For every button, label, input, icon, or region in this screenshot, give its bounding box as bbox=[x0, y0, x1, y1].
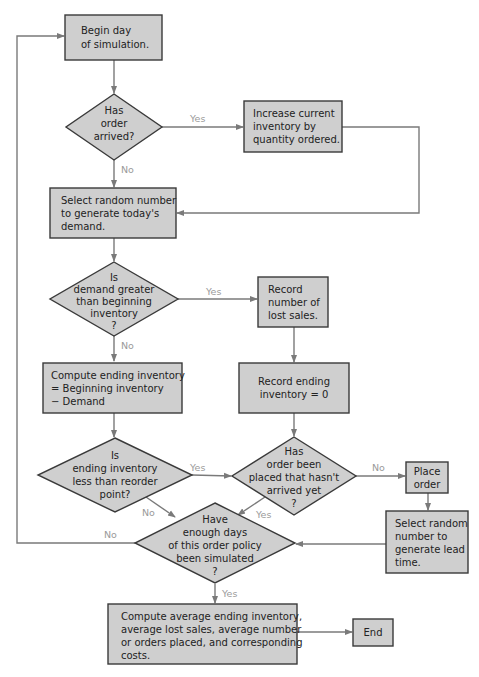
svg-text:quantity ordered.: quantity ordered. bbox=[253, 134, 340, 145]
svg-text:point?: point? bbox=[100, 489, 131, 500]
node-select-lead: Select random number to generate lead ti… bbox=[386, 511, 468, 573]
svg-text:Record ending: Record ending bbox=[258, 376, 330, 387]
svg-text:number to: number to bbox=[395, 531, 447, 542]
svg-text:costs.: costs. bbox=[121, 650, 150, 661]
node-compute-average: Compute average ending inventory, averag… bbox=[108, 604, 302, 664]
svg-text:End: End bbox=[363, 627, 382, 638]
svg-text:less than reorder: less than reorder bbox=[72, 476, 158, 487]
svg-text:inventory = 0: inventory = 0 bbox=[260, 389, 329, 400]
flowchart: Yes No Yes No Yes No No Yes No Yes Begin… bbox=[0, 0, 479, 677]
svg-text:arrived?: arrived? bbox=[94, 131, 135, 142]
edge-ending-less-yes bbox=[192, 475, 231, 476]
label-ending-less-yes: Yes bbox=[189, 462, 205, 473]
node-increase-inventory: Increase current inventory by quantity o… bbox=[244, 101, 342, 152]
label-order-placed-yes: Yes bbox=[255, 509, 271, 520]
svg-text:?: ? bbox=[212, 566, 217, 577]
svg-text:Compute average ending invento: Compute average ending inventory, bbox=[121, 611, 302, 622]
node-select-demand: Select random number to generate today's… bbox=[50, 188, 177, 238]
svg-text:inventory by: inventory by bbox=[253, 121, 316, 132]
node-demand-greater: Is demand greater than beginning invento… bbox=[50, 262, 178, 336]
svg-text:or orders placed, and correspo: or orders placed, and corresponding bbox=[121, 637, 302, 648]
node-place-order: Place order bbox=[406, 462, 448, 493]
svg-text:Select random: Select random bbox=[395, 518, 468, 529]
svg-text:Compute ending inventory: Compute ending inventory bbox=[51, 370, 185, 381]
node-ending-less-reorder: Is ending inventory less than reorder po… bbox=[38, 438, 192, 512]
svg-text:to generate today's: to generate today's bbox=[61, 208, 159, 219]
svg-text:Place: Place bbox=[414, 466, 441, 477]
svg-text:Is: Is bbox=[110, 272, 118, 283]
svg-text:Increase current: Increase current bbox=[253, 108, 335, 119]
label-demand-greater-yes: Yes bbox=[205, 286, 221, 297]
node-end: End bbox=[353, 619, 393, 646]
svg-text:= Beginning inventory: = Beginning inventory bbox=[51, 383, 164, 394]
svg-text:− Demand: − Demand bbox=[51, 396, 105, 407]
svg-text:Begin day: Begin day bbox=[81, 25, 131, 36]
svg-text:average lost sales, average nu: average lost sales, average number bbox=[121, 624, 302, 635]
svg-text:generate lead: generate lead bbox=[395, 544, 465, 555]
svg-text:inventory: inventory bbox=[90, 308, 138, 319]
label-ending-less-no: No bbox=[142, 507, 155, 518]
svg-text:?: ? bbox=[291, 498, 296, 509]
svg-text:Is: Is bbox=[111, 450, 119, 461]
svg-text:Has: Has bbox=[285, 446, 304, 457]
node-record-ending-zero: Record ending inventory = 0 bbox=[239, 363, 349, 413]
label-order-placed-no: No bbox=[372, 462, 385, 473]
svg-text:number of: number of bbox=[268, 297, 320, 308]
node-begin: Begin day of simulation. bbox=[65, 15, 162, 60]
svg-text:order been: order been bbox=[267, 459, 322, 470]
svg-text:Has: Has bbox=[105, 105, 124, 116]
label-enough-days-yes: Yes bbox=[221, 588, 237, 599]
svg-text:order: order bbox=[414, 479, 442, 490]
label-order-arrived-yes: Yes bbox=[189, 113, 205, 124]
svg-text:demand.: demand. bbox=[61, 221, 105, 232]
node-compute-ending: Compute ending inventory = Beginning inv… bbox=[43, 363, 185, 413]
label-enough-days-no: No bbox=[104, 529, 117, 540]
svg-text:?: ? bbox=[111, 320, 116, 331]
label-demand-greater-no: No bbox=[121, 340, 134, 351]
svg-text:time.: time. bbox=[395, 557, 421, 568]
svg-text:enough days: enough days bbox=[183, 527, 247, 538]
node-order-arrived: Has order arrived? bbox=[66, 94, 162, 160]
svg-text:of simulation.: of simulation. bbox=[81, 39, 149, 50]
svg-text:Have: Have bbox=[202, 514, 228, 525]
svg-text:arrived yet: arrived yet bbox=[267, 485, 322, 496]
svg-text:been simulated: been simulated bbox=[176, 553, 254, 564]
label-order-arrived-no: No bbox=[121, 164, 134, 175]
svg-text:ending inventory: ending inventory bbox=[72, 463, 157, 474]
svg-text:demand greater: demand greater bbox=[74, 284, 156, 295]
node-record-lost-sales: Record number of lost sales. bbox=[258, 277, 328, 327]
svg-text:order: order bbox=[101, 118, 129, 129]
svg-text:placed that hasn't: placed that hasn't bbox=[249, 472, 340, 483]
svg-text:Record: Record bbox=[268, 284, 303, 295]
svg-text:than beginning: than beginning bbox=[76, 296, 152, 307]
svg-text:Select random number: Select random number bbox=[61, 195, 177, 206]
svg-text:lost sales.: lost sales. bbox=[268, 310, 318, 321]
svg-text:of this order policy: of this order policy bbox=[168, 540, 262, 551]
node-order-placed: Has order been placed that hasn't arrive… bbox=[232, 437, 356, 515]
